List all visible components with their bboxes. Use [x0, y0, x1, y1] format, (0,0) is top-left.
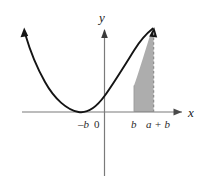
tick-label-origin: 0 [94, 118, 100, 130]
tick-label-vertex: –b [77, 118, 90, 130]
shaded-region [134, 29, 154, 112]
parabola-figure: y x –b 0 b a + b [0, 0, 204, 176]
y-axis-label: y [97, 10, 105, 25]
x-axis [22, 109, 182, 116]
x-axis-label: x [187, 105, 194, 120]
tick-label-upper-bound: a + b [146, 118, 170, 130]
y-axis [101, 29, 108, 176]
tick-label-lower-bound: b [131, 118, 137, 130]
